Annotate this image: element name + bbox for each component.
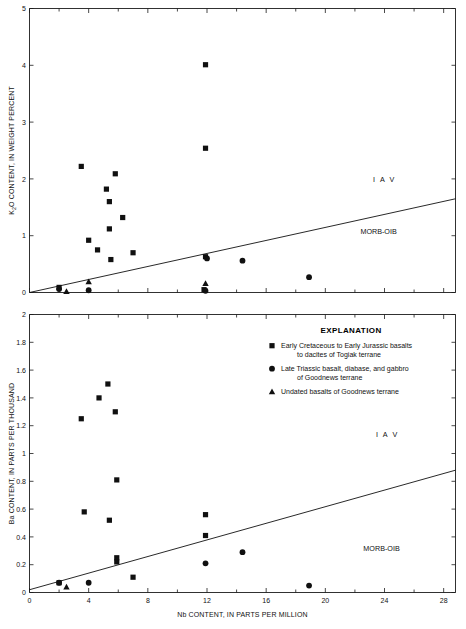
data-point-square [79,164,84,169]
y-tick-label: 0.6 [16,506,26,513]
data-point-square [86,238,91,243]
y-tick-label: 1 [22,450,26,457]
y-tick-label: 4 [22,62,26,69]
y-tick-label: 0.4 [16,534,26,541]
y-tick-label: 0 [22,289,26,296]
trend-line [30,199,456,293]
data-point-circle [203,288,209,294]
data-point-circle [240,258,246,264]
annotation-label: MORB-OIB [360,227,397,236]
data-point-square [82,509,87,514]
data-point-triangle [63,584,69,590]
y-tick-label: 3 [22,119,26,126]
y-tick-label: 0.8 [16,478,26,485]
y-tick-label: 1.4 [16,395,26,402]
data-point-triangle [269,389,275,395]
panel-ba_panel: 048121620242800.20.40.60.811.21.41.61.82… [8,311,456,617]
data-point-circle [306,274,312,280]
data-point-circle [86,287,92,293]
data-point-square [130,250,135,255]
y-tick-label: 0.2 [16,561,26,568]
data-point-triangle [85,279,91,285]
annotation-label: I A V [373,175,396,184]
data-point-square [95,247,100,252]
data-point-square [203,62,208,67]
y-tick-label: 1.2 [16,422,26,429]
data-point-square [104,187,109,192]
legend-entry-line2: of Goodnews terrane [297,374,362,381]
y-axis-title-part: O CONTENT, IN WEIGHT PERCENT [8,86,15,207]
series-square [56,381,208,585]
data-point-square [107,199,112,204]
y-tick-label: 1.8 [16,339,26,346]
x-tick-label: 28 [440,597,448,604]
data-point-square [130,575,135,580]
x-tick-label: 0 [28,597,32,604]
data-point-triangle [202,280,208,286]
annotation-label: MORB-OIB [363,544,400,553]
data-point-square [107,518,112,523]
figure-root: 012345I A VMORB-OIBK2O CONTENT, IN WEIGH… [0,0,466,629]
data-point-square [105,381,110,386]
data-point-square [114,559,119,564]
data-point-square [113,409,118,414]
x-tick-label: 4 [87,597,91,604]
legend-entry-line2: to dacites of Togiak terrane [297,351,381,359]
data-point-circle [204,256,210,262]
data-point-circle [56,286,62,292]
data-point-square [113,171,118,176]
geochemistry-figure: 012345I A VMORB-OIBK2O CONTENT, IN WEIGH… [0,0,466,629]
data-point-circle [306,583,312,589]
y-tick-label: 2 [22,311,26,318]
series-circle [56,549,312,588]
series-triangle [63,279,208,294]
series-square [56,62,208,292]
data-point-circle [203,560,209,566]
x-tick-label: 20 [321,597,329,604]
data-point-square [269,343,274,348]
data-point-square [107,226,112,231]
trend-line [30,470,456,590]
data-point-square [114,477,119,482]
legend-entry-line1: Late Triassic basalt, diabase, and gabbr… [281,365,409,373]
legend-title: EXPLANATION [320,326,381,335]
legend-entry-line1: Undated basalts of Goodnews terrane [281,388,399,395]
explanation-legend: EXPLANATIONEarly Cretaceous to Early Jur… [269,326,413,395]
series-triangle [63,584,69,590]
data-point-square [120,215,125,220]
data-point-triangle [63,288,69,294]
data-point-square [203,512,208,517]
y-tick-label: 5 [22,5,26,12]
data-point-square [96,395,101,400]
y-tick-label: 2 [22,176,26,183]
y-axis-title: K2O CONTENT, IN WEIGHT PERCENT [8,86,17,215]
series-circle [56,256,312,294]
data-point-circle [240,549,246,555]
plot-frame [30,9,456,293]
x-tick-label: 12 [203,597,211,604]
legend-entry-line1: Early Cretaceous to Early Jurassic basal… [281,342,413,350]
y-axis-title: Ba CONTENT, IN PARTS PER THOUSAND [8,383,15,524]
x-tick-label: 16 [262,597,270,604]
data-point-circle [269,366,275,372]
data-point-square [203,533,208,538]
data-point-square [203,146,208,151]
panel-k2o_panel: 012345I A VMORB-OIBK2O CONTENT, IN WEIGH… [8,5,456,296]
data-point-circle [56,580,62,586]
data-point-square [79,416,84,421]
data-point-circle [86,580,92,586]
annotation-label: I A V [376,430,399,439]
data-point-square [108,257,113,262]
x-tick-label: 24 [381,597,389,604]
x-axis-title: Nb CONTENT, IN PARTS PER MILLION [177,611,308,618]
y-tick-label: 1 [22,232,26,239]
y-tick-label: 0 [22,589,26,596]
x-tick-label: 8 [146,597,150,604]
y-tick-label: 1.6 [16,367,26,374]
